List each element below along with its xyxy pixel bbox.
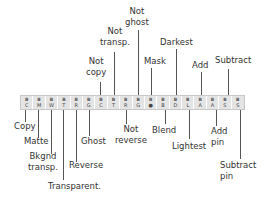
ink-letter: L [186, 102, 189, 108]
label-bkgnd-transp: Bkgnd transp. [28, 151, 58, 173]
ink-cell-not-transp[interactable]: BT [108, 96, 120, 109]
ink-letter: T [62, 102, 65, 108]
leader-line [201, 72, 202, 95]
ink-cell-reverse[interactable]: BR [71, 96, 83, 109]
label-not-reverse: Not reverse [115, 124, 147, 146]
leader-line [240, 110, 241, 159]
ink-letter: B [161, 102, 164, 108]
ink-effects-strip: BC BM BW BT BR BG BC BT BR BG B● BB BD B… [20, 95, 245, 110]
ink-letter: G [87, 102, 91, 108]
leader-line [51, 110, 52, 154]
leader-line [89, 110, 90, 136]
label-matte: Matte [24, 136, 48, 147]
label-ghost: Ghost [81, 136, 106, 147]
label-not-ghost: Not ghost [125, 6, 149, 28]
ink-cell-subtract-pin[interactable]: BS [232, 96, 244, 109]
ink-cell-copy[interactable]: BC [21, 96, 33, 109]
ink-cell-not-copy[interactable]: BC [95, 96, 107, 109]
ink-letter: C [99, 102, 103, 108]
label-subtract: Subtract [215, 55, 251, 66]
label-add-pin: Add pin [211, 126, 227, 148]
label-lightest: Lightest [172, 141, 206, 152]
ink-cell-transparent[interactable]: BT [58, 96, 70, 109]
leader-line [63, 110, 64, 180]
leader-line [114, 52, 115, 95]
ink-letter: W [49, 102, 54, 108]
leader-line [151, 68, 152, 95]
leader-line [165, 110, 166, 124]
leader-line [228, 69, 229, 95]
ink-cell-not-ghost[interactable]: BG [133, 96, 145, 109]
label-add: Add [192, 60, 208, 71]
label-reverse: Reverse [69, 160, 103, 171]
ink-letter: M [37, 102, 41, 108]
ink-cell-mask[interactable]: B● [145, 96, 157, 109]
label-not-copy: Not copy [86, 56, 106, 78]
label-darkest: Darkest [160, 37, 193, 48]
ink-letter: S [236, 102, 239, 108]
ink-cell-matte[interactable]: BM [33, 96, 45, 109]
ink-cell-lightest[interactable]: BL [182, 96, 194, 109]
leader-line [176, 49, 177, 95]
label-copy: Copy [14, 121, 36, 132]
ink-letter: A [198, 102, 201, 108]
leader-line [126, 110, 127, 124]
leader-line [38, 110, 39, 138]
leader-line [216, 110, 217, 126]
ink-cell-ghost[interactable]: BG [83, 96, 95, 109]
ink-letter: S [223, 102, 226, 108]
ink-cell-add-pin[interactable]: BA [207, 96, 219, 109]
ink-cell-subtract[interactable]: BS [219, 96, 231, 109]
ink-cell-bkgnd-transp[interactable]: BW [46, 96, 58, 109]
ink-letter: R [124, 102, 127, 108]
ink-cell-not-reverse[interactable]: BR [120, 96, 132, 109]
ink-cell-darkest[interactable]: BD [170, 96, 182, 109]
label-not-transp: Not transp. [100, 26, 130, 48]
ink-letter: ● [148, 102, 152, 108]
leader-line [100, 82, 101, 95]
ink-letter: A [211, 102, 214, 108]
leader-line [189, 110, 190, 139]
ink-letter: D [173, 102, 177, 108]
ink-cell-add[interactable]: BA [194, 96, 206, 109]
ink-letter: G [136, 102, 140, 108]
ink-cell-blend[interactable]: BB [157, 96, 169, 109]
label-mask: Mask [144, 56, 166, 67]
label-subtract-pin: Subtract pin [220, 160, 256, 182]
ink-letter: C [25, 102, 29, 108]
label-blend: Blend [152, 125, 176, 136]
leader-line [76, 110, 77, 162]
label-transparent: Transparent. [48, 181, 101, 192]
ink-letter: T [112, 102, 115, 108]
leader-line [138, 30, 139, 95]
ink-letter: R [75, 102, 78, 108]
